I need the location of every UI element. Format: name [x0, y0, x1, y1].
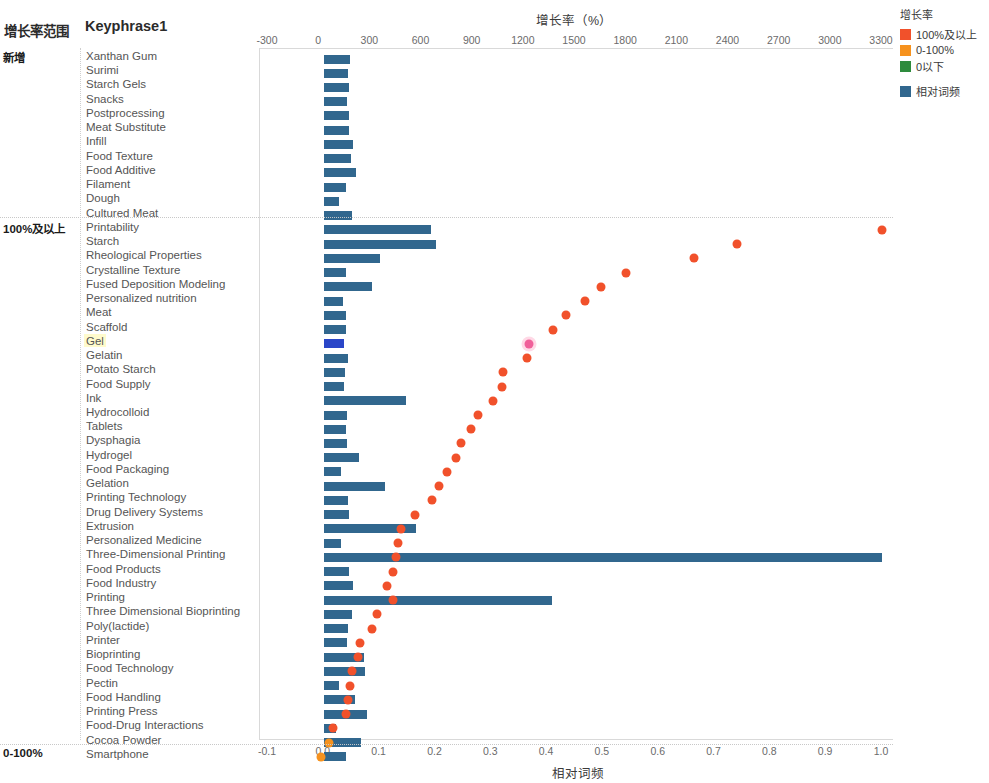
- growth-rate-dot[interactable]: [388, 596, 397, 605]
- frequency-bar[interactable]: [324, 624, 349, 633]
- growth-rate-dot[interactable]: [347, 667, 356, 676]
- group-label[interactable]: 100%及以上: [3, 220, 65, 236]
- keyphrase-label[interactable]: Food Texture: [86, 150, 153, 162]
- keyphrase-label[interactable]: Potato Starch: [86, 363, 156, 375]
- keyphrase-label[interactable]: Scaffold: [86, 321, 127, 333]
- keyphrase-label[interactable]: Food Supply: [86, 378, 151, 390]
- growth-rate-dot[interactable]: [345, 681, 354, 690]
- frequency-bar[interactable]: [324, 539, 341, 548]
- frequency-bar[interactable]: [324, 168, 356, 177]
- legend-item[interactable]: 0以下: [900, 58, 988, 74]
- frequency-bar[interactable]: [324, 681, 340, 690]
- frequency-bar[interactable]: [324, 396, 407, 405]
- frequency-bar[interactable]: [324, 183, 346, 192]
- growth-rate-dot[interactable]: [368, 624, 377, 633]
- frequency-bar[interactable]: [324, 453, 359, 462]
- frequency-bar[interactable]: [324, 425, 346, 434]
- frequency-bar[interactable]: [324, 510, 349, 519]
- frequency-bar[interactable]: [324, 411, 347, 420]
- keyphrase-label[interactable]: Printability: [86, 221, 139, 233]
- growth-rate-dot[interactable]: [344, 695, 353, 704]
- frequency-bar[interactable]: [324, 297, 343, 306]
- keyphrase-label[interactable]: Food-Drug Interactions: [86, 719, 204, 731]
- frequency-bar[interactable]: [324, 55, 350, 64]
- frequency-bar[interactable]: [324, 482, 385, 491]
- growth-rate-dot[interactable]: [497, 382, 506, 391]
- group-label[interactable]: 新增: [3, 49, 25, 65]
- keyphrase-label[interactable]: Extrusion: [86, 520, 134, 532]
- keyphrase-label[interactable]: Poly(lactide): [86, 620, 149, 632]
- frequency-bar[interactable]: [324, 752, 346, 761]
- legend-item[interactable]: 0-100%: [900, 44, 988, 56]
- growth-rate-dot[interactable]: [878, 225, 887, 234]
- keyphrase-label[interactable]: Printing Technology: [86, 491, 186, 503]
- growth-rate-dot[interactable]: [489, 396, 498, 405]
- keyphrase-label[interactable]: Meat Substitute: [86, 121, 166, 133]
- growth-rate-dot[interactable]: [523, 354, 532, 363]
- frequency-bar[interactable]: [324, 339, 344, 348]
- growth-rate-dot[interactable]: [342, 710, 351, 719]
- growth-rate-dot[interactable]: [397, 524, 406, 533]
- keyphrase-label[interactable]: Personalized nutrition: [86, 292, 197, 304]
- growth-rate-dot[interactable]: [622, 268, 631, 277]
- frequency-bar[interactable]: [324, 154, 351, 163]
- keyphrase-label[interactable]: Food Technology: [86, 662, 173, 674]
- frequency-bar[interactable]: [324, 69, 348, 78]
- keyphrase-label[interactable]: Meat: [86, 306, 112, 318]
- growth-rate-dot[interactable]: [443, 467, 452, 476]
- growth-rate-dot[interactable]: [499, 368, 508, 377]
- frequency-bar[interactable]: [324, 354, 348, 363]
- frequency-bar[interactable]: [324, 382, 344, 391]
- keyphrase-label[interactable]: Crystalline Texture: [86, 264, 180, 276]
- keyphrase-label[interactable]: Printer: [86, 634, 120, 646]
- frequency-bar[interactable]: [324, 581, 353, 590]
- frequency-bar[interactable]: [324, 496, 348, 505]
- growth-rate-dot[interactable]: [473, 411, 482, 420]
- frequency-bar[interactable]: [324, 667, 365, 676]
- keyphrase-label[interactable]: Food Handling: [86, 691, 161, 703]
- keyphrase-label[interactable]: Pectin: [86, 677, 118, 689]
- growth-rate-dot[interactable]: [524, 339, 533, 348]
- keyphrase-label[interactable]: Starch: [86, 235, 119, 247]
- frequency-bar[interactable]: [324, 638, 347, 647]
- keyphrase-label[interactable]: Infill: [86, 135, 106, 147]
- growth-rate-dot[interactable]: [562, 311, 571, 320]
- frequency-bar[interactable]: [324, 97, 347, 106]
- keyphrase-label[interactable]: Drug Delivery Systems: [86, 506, 203, 518]
- keyphrase-label[interactable]: Filament: [86, 178, 130, 190]
- legend-item-bar[interactable]: 相对词频: [900, 83, 988, 99]
- growth-rate-dot[interactable]: [354, 653, 363, 662]
- keyphrase-label[interactable]: Ink: [86, 392, 101, 404]
- frequency-bar[interactable]: [324, 83, 349, 92]
- keyphrase-label[interactable]: Smartphone: [86, 748, 149, 760]
- frequency-bar[interactable]: [324, 140, 353, 149]
- keyphrase-label[interactable]: Personalized Medicine: [86, 534, 202, 546]
- growth-rate-dot[interactable]: [596, 282, 605, 291]
- growth-rate-dot[interactable]: [466, 425, 475, 434]
- frequency-bar[interactable]: [324, 268, 346, 277]
- growth-rate-dot[interactable]: [325, 738, 334, 747]
- keyphrase-label[interactable]: Surimi: [86, 64, 119, 76]
- keyphrase-label[interactable]: Food Packaging: [86, 463, 169, 475]
- growth-rate-dot[interactable]: [388, 567, 397, 576]
- frequency-bar[interactable]: [324, 325, 346, 334]
- keyphrase-label[interactable]: Dough: [86, 192, 120, 204]
- keyphrase-label[interactable]: Snacks: [86, 93, 124, 105]
- growth-rate-dot[interactable]: [356, 638, 365, 647]
- frequency-bar[interactable]: [324, 567, 350, 576]
- frequency-bar[interactable]: [324, 311, 346, 320]
- growth-rate-dot[interactable]: [690, 254, 699, 263]
- growth-rate-dot[interactable]: [328, 724, 337, 733]
- frequency-bar[interactable]: [324, 225, 431, 234]
- frequency-bar[interactable]: [324, 254, 380, 263]
- keyphrase-label[interactable]: Gelation: [86, 477, 129, 489]
- keyphrase-label[interactable]: Food Additive: [86, 164, 156, 176]
- keyphrase-label[interactable]: Food Industry: [86, 577, 156, 589]
- frequency-bar[interactable]: [324, 111, 350, 120]
- frequency-bar[interactable]: [324, 368, 345, 377]
- growth-rate-dot[interactable]: [451, 453, 460, 462]
- growth-rate-dot[interactable]: [434, 482, 443, 491]
- growth-rate-dot[interactable]: [410, 510, 419, 519]
- keyphrase-label[interactable]: Starch Gels: [86, 78, 146, 90]
- frequency-bar[interactable]: [324, 197, 339, 206]
